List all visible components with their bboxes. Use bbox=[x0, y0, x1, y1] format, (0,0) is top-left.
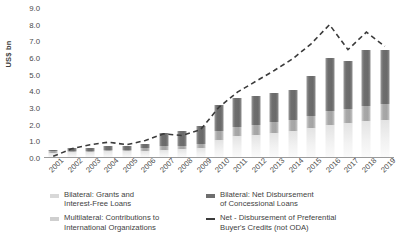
x-tick-2014: 2014 bbox=[283, 160, 301, 190]
x-tick-2019: 2019 bbox=[376, 160, 394, 190]
stacked-bar[interactable] bbox=[343, 61, 352, 158]
bar-segment-concessional bbox=[196, 126, 205, 144]
bar-segment-grants bbox=[362, 121, 371, 158]
y-tick-9.0: 9.0 bbox=[29, 4, 40, 13]
y-tick-1.0: 1.0 bbox=[29, 137, 40, 146]
bar-segment-concessional bbox=[178, 131, 187, 145]
x-tick-2003: 2003 bbox=[81, 160, 99, 190]
bar-segment-multilateral bbox=[233, 127, 242, 136]
bar-segment-multilateral bbox=[343, 109, 352, 123]
y-tick-5.0: 5.0 bbox=[29, 70, 40, 79]
bar-segment-concessional bbox=[325, 58, 334, 111]
bar-column bbox=[99, 8, 117, 158]
bar-segment-concessional bbox=[362, 50, 371, 107]
bar-column bbox=[62, 8, 80, 158]
bar-segment-multilateral bbox=[251, 125, 260, 135]
stacked-bar[interactable] bbox=[251, 96, 260, 158]
stacked-bar[interactable] bbox=[325, 58, 334, 158]
bar-segment-grants bbox=[343, 123, 352, 158]
legend-swatch-icon bbox=[206, 194, 215, 198]
x-tick-2013: 2013 bbox=[265, 160, 283, 190]
bar-columns bbox=[44, 8, 394, 158]
bar-segment-grants bbox=[288, 131, 297, 158]
bar-column bbox=[357, 8, 375, 158]
stacked-bar[interactable] bbox=[178, 131, 187, 158]
bar-segment-concessional bbox=[380, 50, 389, 104]
chart-legend: Bilateral: Grants andInterest-Free Loans… bbox=[50, 190, 395, 232]
x-axis-labels: 2001200220032004200520062007200820092010… bbox=[44, 160, 394, 190]
bar-column bbox=[265, 8, 283, 158]
y-tick-2.0: 2.0 bbox=[29, 120, 40, 129]
bar-segment-multilateral bbox=[288, 120, 297, 132]
legend-swatch-icon bbox=[50, 194, 59, 198]
bar-column bbox=[247, 8, 265, 158]
bar-column bbox=[339, 8, 357, 158]
bar-column bbox=[191, 8, 209, 158]
legend-item[interactable]: Bilateral: Grants andInterest-Free Loans bbox=[50, 190, 200, 208]
stacked-bar[interactable] bbox=[196, 126, 205, 158]
bar-column bbox=[136, 8, 154, 158]
bar-column bbox=[155, 8, 173, 158]
x-tick-2006: 2006 bbox=[136, 160, 154, 190]
bar-segment-concessional bbox=[159, 133, 168, 146]
legend-label: Bilateral: Grants andInterest-Free Loans bbox=[64, 190, 134, 208]
legend-swatch-icon bbox=[50, 217, 59, 221]
bar-segment-multilateral bbox=[362, 106, 371, 121]
bar-column bbox=[302, 8, 320, 158]
bar-segment-grants bbox=[233, 136, 242, 158]
bar-column bbox=[376, 8, 394, 158]
bar-segment-grants bbox=[307, 128, 316, 158]
x-tick-2016: 2016 bbox=[320, 160, 338, 190]
x-tick-2009: 2009 bbox=[191, 160, 209, 190]
plot-area: 0.01.02.03.04.05.06.07.08.09.0 bbox=[44, 8, 394, 158]
x-tick-2001: 2001 bbox=[44, 160, 62, 190]
bar-segment-concessional bbox=[251, 96, 260, 124]
stacked-bar[interactable] bbox=[233, 98, 242, 158]
bar-segment-concessional bbox=[343, 61, 352, 109]
bar-segment-grants bbox=[215, 140, 224, 158]
bar-segment-multilateral bbox=[215, 131, 224, 139]
bar-segment-grants bbox=[270, 133, 279, 158]
y-tick-0.0: 0.0 bbox=[29, 154, 40, 163]
chart-container: US$ bn 0.01.02.03.04.05.06.07.08.09.0 20… bbox=[0, 0, 399, 244]
x-tick-2018: 2018 bbox=[357, 160, 375, 190]
x-tick-2011: 2011 bbox=[228, 160, 246, 190]
bar-column bbox=[173, 8, 191, 158]
bar-segment-multilateral bbox=[380, 104, 389, 120]
legend-label: Multilateral: Contributions toInternatio… bbox=[64, 213, 159, 231]
stacked-bar[interactable] bbox=[270, 93, 279, 158]
x-tick-2010: 2010 bbox=[210, 160, 228, 190]
x-tick-2004: 2004 bbox=[99, 160, 117, 190]
x-tick-2008: 2008 bbox=[173, 160, 191, 190]
bar-segment-concessional bbox=[288, 90, 297, 120]
y-tick-4.0: 4.0 bbox=[29, 87, 40, 96]
stacked-bar[interactable] bbox=[380, 50, 389, 158]
bar-column bbox=[44, 8, 62, 158]
stacked-bar[interactable] bbox=[141, 144, 150, 158]
bar-segment-multilateral bbox=[325, 111, 334, 124]
bar-segment-multilateral bbox=[270, 122, 279, 133]
x-tick-2015: 2015 bbox=[302, 160, 320, 190]
legend-item[interactable]: Multilateral: Contributions toInternatio… bbox=[50, 213, 200, 231]
stacked-bar[interactable] bbox=[362, 50, 371, 158]
legend-swatch-icon bbox=[206, 218, 215, 220]
bar-column bbox=[118, 8, 136, 158]
bar-segment-grants bbox=[380, 120, 389, 158]
y-tick-6.0: 6.0 bbox=[29, 54, 40, 63]
stacked-bar[interactable] bbox=[159, 133, 168, 158]
y-axis-label: US$ bn bbox=[4, 54, 13, 68]
bar-column bbox=[283, 8, 301, 158]
stacked-bar[interactable] bbox=[307, 76, 316, 158]
x-tick-2007: 2007 bbox=[155, 160, 173, 190]
legend-item[interactable]: Bilateral: Net Disbursementof Concession… bbox=[206, 190, 395, 208]
y-tick-3.0: 3.0 bbox=[29, 104, 40, 113]
y-tick-8.0: 8.0 bbox=[29, 20, 40, 29]
stacked-bar[interactable] bbox=[215, 105, 224, 158]
bar-segment-concessional bbox=[215, 105, 224, 132]
x-tick-2012: 2012 bbox=[247, 160, 265, 190]
x-tick-2002: 2002 bbox=[62, 160, 80, 190]
bar-column bbox=[320, 8, 338, 158]
stacked-bar[interactable] bbox=[288, 90, 297, 158]
x-tick-2017: 2017 bbox=[339, 160, 357, 190]
legend-item[interactable]: Net - Disbursement of PreferentialBuyer'… bbox=[206, 213, 395, 231]
